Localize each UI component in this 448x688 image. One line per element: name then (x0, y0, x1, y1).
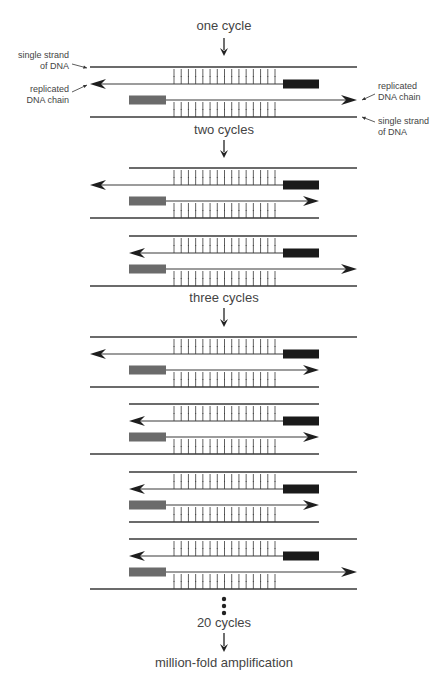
ellipsis-dot (222, 597, 226, 601)
reverse-primer (283, 181, 319, 190)
reverse-primer (283, 417, 319, 426)
step-label-one-cycle: one cycle (197, 18, 252, 33)
forward-primer (129, 265, 166, 274)
step-label-two-cycles: two cycles (194, 122, 254, 137)
ellipsis-dot (222, 611, 226, 615)
svg-text:of DNA: of DNA (40, 61, 69, 71)
reverse-primer (283, 552, 319, 561)
svg-text:single strand: single strand (378, 116, 429, 126)
svg-text:single strand: single strand (18, 50, 69, 60)
svg-text:DNA chain: DNA chain (26, 95, 69, 105)
forward-primer (129, 197, 166, 206)
svg-text:replicated: replicated (378, 81, 417, 91)
svg-text:of DNA: of DNA (378, 127, 407, 137)
forward-primer (129, 433, 166, 442)
reverse-primer (283, 350, 319, 359)
pcr-diagram: one cycle two cycles three cycles 20 cyc… (0, 0, 448, 688)
svg-text:replicated: replicated (30, 84, 69, 94)
forward-primer (129, 366, 166, 375)
forward-primer (129, 568, 166, 577)
reverse-primer (283, 80, 319, 89)
step-label-three-cycles: three cycles (189, 290, 259, 305)
annotation-replicated-left: replicated DNA chain (26, 84, 69, 105)
svg-text:DNA chain: DNA chain (378, 92, 421, 102)
ellipsis-dot (222, 604, 226, 608)
reverse-primer (283, 249, 319, 258)
forward-primer (129, 96, 166, 105)
step-label-20-cycles: 20 cycles (197, 615, 252, 630)
annotation-replicated-right: replicated DNA chain (378, 81, 421, 102)
reverse-primer (283, 485, 319, 494)
step-label-amplification: million-fold amplification (155, 655, 293, 670)
annotation-single-strand-right: single strand of DNA (378, 116, 429, 137)
annotation-single-strand-left: single strand of DNA (18, 50, 69, 71)
forward-primer (129, 501, 166, 510)
